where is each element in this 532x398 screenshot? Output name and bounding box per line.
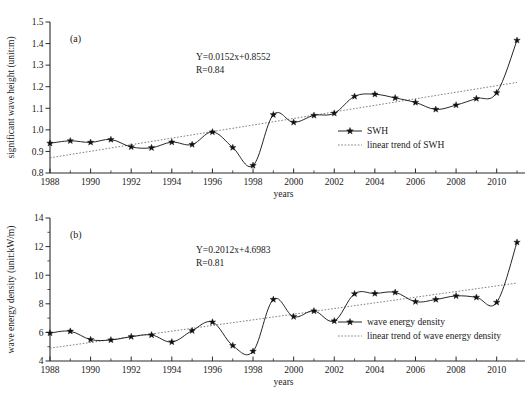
- y-axis-title: significant wave height (unit:m): [6, 36, 17, 158]
- x-tick-label: 1994: [162, 365, 181, 375]
- data-point-marker: [392, 289, 398, 295]
- data-point-marker: [87, 139, 93, 145]
- x-tick-label: 2006: [406, 177, 425, 187]
- data-point-marker: [128, 144, 134, 150]
- data-point-marker: [67, 137, 73, 143]
- x-tick-label: 1994: [162, 177, 181, 187]
- data-point-marker: [148, 144, 154, 150]
- x-tick-label: 1998: [244, 365, 263, 375]
- x-tick-label: 2000: [284, 177, 303, 187]
- x-tick-label: 1996: [203, 177, 222, 187]
- data-point-marker: [169, 339, 175, 345]
- x-tick-label: 2000: [284, 365, 303, 375]
- x-tick-label: 1988: [41, 177, 60, 187]
- data-point-marker: [412, 99, 418, 105]
- y-tick-label: 12: [34, 242, 44, 252]
- data-point-marker: [392, 95, 398, 101]
- y-tick-label: 8: [39, 299, 44, 309]
- x-tick-label: 2006: [406, 365, 425, 375]
- data-point-marker: [514, 37, 520, 43]
- equation-label: Y=0.2012x+4.6983: [196, 245, 271, 255]
- x-tick-label: 2008: [447, 365, 466, 375]
- data-point-marker: [493, 89, 499, 95]
- data-point-marker: [331, 110, 337, 116]
- x-tick-label: 1998: [244, 177, 263, 187]
- y-tick-label: 1.4: [32, 39, 44, 49]
- y-tick-label: 14: [34, 213, 44, 223]
- x-tick-label: 2010: [487, 177, 506, 187]
- data-point-marker: [209, 129, 215, 135]
- x-tick-label: 2002: [325, 365, 344, 375]
- chart-b-canvas: 4681012141988199019921994199619982000200…: [0, 198, 532, 398]
- x-tick-label: 1992: [122, 365, 141, 375]
- data-point-marker: [433, 106, 439, 112]
- data-point-marker: [311, 308, 317, 314]
- legend-label-trend: linear trend of SWH: [367, 140, 444, 150]
- wave-climate-figure: 0.80.91.01.11.21.31.41.51988199019921994…: [0, 0, 532, 398]
- y-tick-label: 1.5: [32, 17, 44, 27]
- data-point-marker: [290, 119, 296, 125]
- data-point-marker: [473, 294, 479, 300]
- data-point-marker: [270, 296, 276, 302]
- correlation-label: R=0.81: [196, 258, 225, 268]
- x-tick-label: 2002: [325, 177, 344, 187]
- data-point-marker: [108, 136, 114, 142]
- y-tick-label: 1.3: [32, 60, 44, 70]
- data-point-marker: [514, 239, 520, 245]
- data-point-marker: [108, 337, 114, 343]
- chart-panel-a: 0.80.91.01.11.21.31.41.51988199019921994…: [0, 0, 532, 200]
- x-tick-label: 1990: [81, 365, 100, 375]
- x-tick-label: 2010: [487, 365, 506, 375]
- data-point-marker: [372, 290, 378, 296]
- data-point-marker: [270, 111, 276, 117]
- y-tick-label: 1.2: [32, 82, 44, 92]
- x-tick-label: 2004: [365, 177, 384, 187]
- y-tick-label: 1.0: [32, 125, 44, 135]
- legend-label-series: SWH: [367, 126, 388, 136]
- equation-label: Y=0.0152x+0.8552: [196, 52, 271, 62]
- data-point-marker: [169, 139, 175, 145]
- trend-line: [50, 82, 517, 157]
- data-point-marker: [87, 336, 93, 342]
- y-tick-label: 6: [39, 328, 44, 338]
- data-point-marker: [311, 112, 317, 118]
- x-tick-label: 1990: [81, 177, 100, 187]
- data-point-marker: [473, 95, 479, 101]
- legend-label-trend: linear trend of wave energy density: [367, 331, 501, 341]
- y-tick-label: 10: [34, 271, 44, 281]
- x-tick-label: 2008: [447, 177, 466, 187]
- data-point-marker: [412, 298, 418, 304]
- panel-tag: (a): [70, 33, 81, 45]
- data-point-marker: [433, 296, 439, 302]
- data-point-marker: [128, 333, 134, 339]
- x-tick-label: 1992: [122, 177, 141, 187]
- x-tick-label: 1996: [203, 365, 222, 375]
- data-point-marker: [331, 318, 337, 324]
- data-point-marker: [189, 141, 195, 147]
- legend-marker-star-icon: [347, 318, 354, 325]
- legend-marker-star-icon: [347, 127, 354, 134]
- x-axis-title: years: [273, 377, 293, 387]
- panel-tag: (b): [70, 229, 82, 241]
- x-tick-label: 1988: [41, 365, 60, 375]
- x-tick-label: 2004: [365, 365, 384, 375]
- y-axis-title: wave energy density (unit:kW/m): [6, 226, 17, 354]
- data-point-marker: [67, 328, 73, 334]
- data-point-marker: [148, 332, 154, 338]
- data-point-marker: [453, 102, 459, 108]
- correlation-label: R=0.84: [196, 65, 225, 75]
- data-point-marker: [453, 293, 459, 299]
- data-point-marker: [372, 91, 378, 97]
- data-line: [50, 40, 517, 166]
- chart-panel-b: 4681012141988199019921994199619982000200…: [0, 198, 532, 398]
- chart-a-canvas: 0.80.91.01.11.21.31.41.51988199019921994…: [0, 0, 532, 200]
- legend-label-series: wave energy density: [367, 317, 445, 327]
- y-tick-label: 0.9: [32, 147, 44, 157]
- y-tick-label: 1.1: [32, 104, 44, 114]
